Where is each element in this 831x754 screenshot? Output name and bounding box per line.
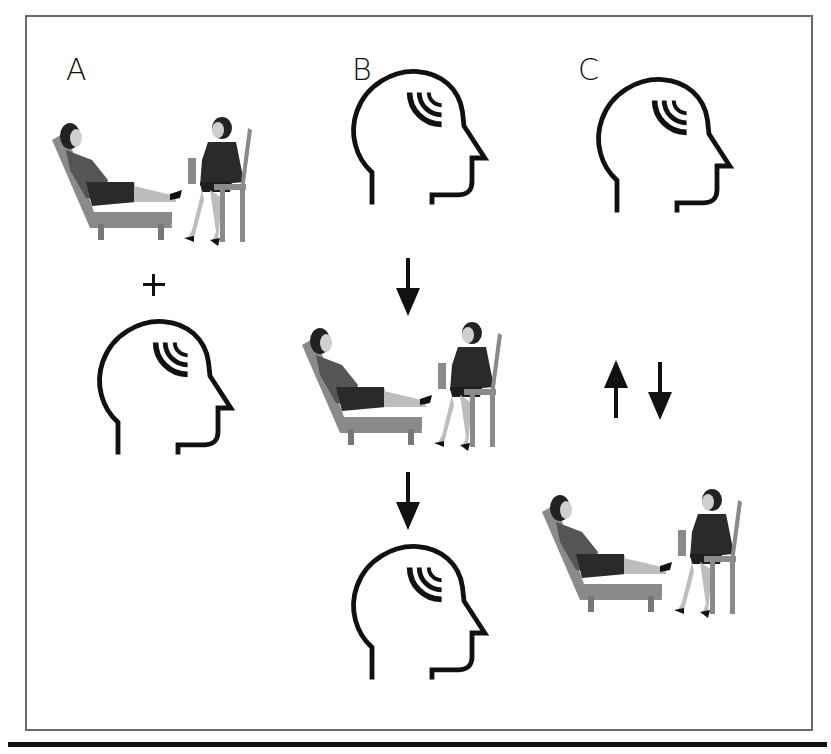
panel-a: [52, 117, 252, 454]
head-profile-with-waves-icon: [354, 71, 485, 204]
therapy-scene-illustration: [302, 322, 502, 451]
arrow-down-icon: [396, 258, 420, 316]
diagram-canvas: A B C: [0, 0, 831, 754]
arrow-up-icon: [604, 360, 628, 418]
arrow-down-icon: [396, 472, 420, 530]
panel-label-b: B: [352, 52, 372, 87]
head-profile-with-waves-icon: [599, 79, 730, 212]
head-profile-with-waves-icon: [100, 321, 231, 454]
therapy-scene-illustration: [52, 117, 252, 246]
panel-label-a: A: [66, 52, 87, 87]
arrow-down-icon: [648, 362, 672, 420]
therapy-scene-illustration: [542, 489, 742, 618]
panel-label-c: C: [578, 52, 599, 87]
head-profile-with-waves-icon: [354, 546, 485, 679]
panel-c: [542, 79, 742, 618]
plus-icon: [143, 274, 165, 296]
panel-b: [302, 71, 502, 679]
